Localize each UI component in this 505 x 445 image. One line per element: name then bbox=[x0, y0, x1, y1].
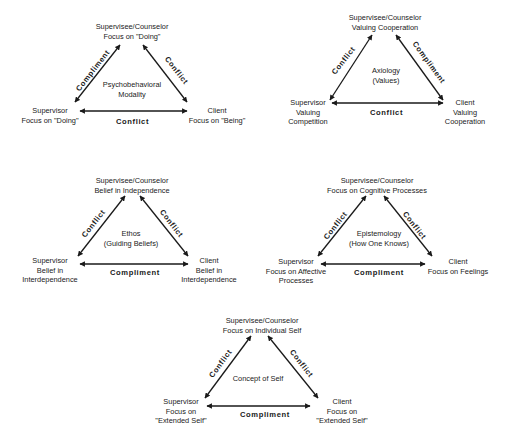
d1-right-node: Client Focus on "Being" bbox=[189, 106, 246, 125]
d4-left-desc-1: Focus on Affective bbox=[266, 267, 326, 277]
d3-top-role: Supervisee/Counselor bbox=[94, 176, 169, 186]
d3-concept-line1: Ethos bbox=[104, 229, 159, 239]
d5-left-node: Supervisor Focus on "Extended Self" bbox=[155, 397, 206, 426]
d5-top-role: Supervisee/Counselor bbox=[223, 316, 301, 326]
d1-right-role: Client bbox=[189, 106, 246, 116]
d1-concept-line1: Psychobehavioral bbox=[103, 80, 161, 90]
d1-bottom-edge-text: Conflict bbox=[116, 117, 149, 126]
d3-concept: Ethos (Guiding Beliefs) bbox=[104, 229, 159, 248]
d2-right-desc-2: Cooperation bbox=[445, 117, 485, 127]
d2-top-node: Supervisee/Counselor Valuing Cooperation bbox=[349, 13, 422, 32]
d2-right-node: Client Valuing Cooperation bbox=[445, 98, 485, 127]
d4-concept-line2: (How One Knows) bbox=[349, 239, 409, 249]
d4-left-role: Supervisor bbox=[266, 257, 326, 267]
d5-right-desc-1: Focus on bbox=[316, 407, 367, 417]
d1-top-node: Supervisee/Counselor Focus on "Doing" bbox=[96, 22, 169, 41]
d5-right-role: Client bbox=[316, 397, 367, 407]
d4-left-node: Supervisor Focus on Affective Processes bbox=[266, 257, 326, 286]
d1-left-desc: Focus on "Doing" bbox=[21, 116, 78, 126]
d3-concept-line2: (Guiding Beliefs) bbox=[104, 239, 159, 249]
d4-top-node: Supervisee/Counselor Focus on Cognitive … bbox=[327, 176, 427, 195]
d5-top-desc: Focus on Individual Self bbox=[223, 326, 301, 336]
d3-left-role: Supervisor bbox=[22, 256, 77, 266]
d5-concept: Concept of Self bbox=[233, 374, 284, 384]
d1-left-node: Supervisor Focus on "Doing" bbox=[21, 106, 78, 125]
d2-right-desc-1: Valuing bbox=[445, 108, 485, 118]
d1-right-desc: Focus on "Being" bbox=[189, 116, 246, 126]
d4-top-role: Supervisee/Counselor bbox=[327, 176, 427, 186]
d5-left-desc-2: "Extended Self" bbox=[155, 416, 206, 426]
d3-left-node: Supervisor Belief in Interdependence bbox=[22, 256, 77, 285]
d1-left-role: Supervisor bbox=[21, 106, 78, 116]
d4-left-desc-2: Processes bbox=[266, 276, 326, 286]
d2-left-role: Supervisor bbox=[288, 98, 327, 108]
d3-right-role: Client bbox=[181, 256, 236, 266]
d2-concept-line1: Axiology bbox=[372, 66, 400, 76]
d3-left-desc-1: Belief in bbox=[22, 266, 77, 276]
d2-top-desc: Valuing Cooperation bbox=[349, 23, 422, 33]
d2-left-desc-1: Valuing bbox=[288, 108, 327, 118]
d1-concept-line2: Modality bbox=[103, 90, 161, 100]
d5-right-desc-2: "Extended Self" bbox=[316, 416, 367, 426]
d5-right-node: Client Focus on "Extended Self" bbox=[316, 397, 367, 426]
d5-bottom-edge-text: Compliment bbox=[240, 410, 290, 419]
d4-right-desc: Focus on Feelings bbox=[428, 267, 488, 277]
d4-bottom-edge-text: Compliment bbox=[354, 268, 404, 277]
d4-concept-line1: Epistemology bbox=[349, 229, 409, 239]
d3-right-desc-1: Belief in bbox=[181, 266, 236, 276]
d4-top-desc: Focus on Cognitive Processes bbox=[327, 186, 427, 196]
d3-top-node: Supervisee/Counselor Belief in Independe… bbox=[94, 176, 169, 195]
d4-right-node: Client Focus on Feelings bbox=[428, 257, 488, 276]
d5-left-desc-1: Focus on bbox=[155, 407, 206, 417]
d5-bottom-edge-label: Compliment bbox=[240, 410, 290, 419]
d1-top-role: Supervisee/Counselor bbox=[96, 22, 169, 32]
d5-left-role: Supervisor bbox=[155, 397, 206, 407]
d2-left-node: Supervisor Valuing Competition bbox=[288, 98, 327, 127]
d5-top-node: Supervisee/Counselor Focus on Individual… bbox=[223, 316, 301, 335]
d1-top-desc: Focus on "Doing" bbox=[96, 32, 169, 42]
d3-bottom-edge-label: Compliment bbox=[110, 268, 160, 277]
d1-bottom-edge-label: Conflict bbox=[116, 117, 149, 126]
d2-right-role: Client bbox=[445, 98, 485, 108]
d3-right-node: Client Belief in Interdependence bbox=[181, 256, 236, 285]
d2-concept: Axiology (Values) bbox=[372, 66, 400, 85]
d3-left-desc-2: Interdependence bbox=[22, 275, 77, 285]
d2-concept-line2: (Values) bbox=[372, 76, 400, 86]
d2-top-role: Supervisee/Counselor bbox=[349, 13, 422, 23]
d2-left-desc-2: Competition bbox=[288, 117, 327, 127]
d5-concept-line1: Concept of Self bbox=[233, 374, 284, 384]
d1-concept: Psychobehavioral Modality bbox=[103, 80, 161, 99]
d4-bottom-edge-label: Compliment bbox=[354, 268, 404, 277]
d3-bottom-edge-text: Compliment bbox=[110, 268, 160, 277]
d3-top-desc: Belief in Independence bbox=[94, 186, 169, 196]
d4-concept: Epistemology (How One Knows) bbox=[349, 229, 409, 248]
d3-right-desc-2: Interdependence bbox=[181, 275, 236, 285]
d2-bottom-edge-label: Conflict bbox=[370, 108, 403, 117]
d4-right-role: Client bbox=[428, 257, 488, 267]
d2-bottom-edge-text: Conflict bbox=[370, 108, 403, 117]
